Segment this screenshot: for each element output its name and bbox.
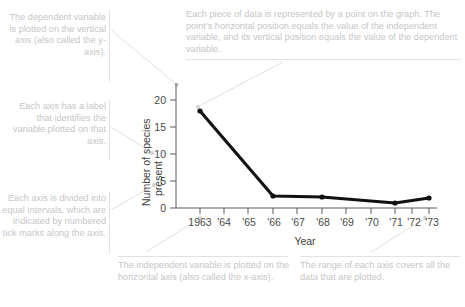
line-chart: 0 5 10 15 20 Number of species present xyxy=(0,0,465,307)
data-point xyxy=(392,200,397,205)
x-axis-tick-labels: 1963 '64 '65 '66 '67 '68 '69 '70 '71 '72… xyxy=(188,216,439,228)
x-tick-label: '73 xyxy=(425,216,439,228)
x-tick-label: '70 xyxy=(365,216,379,228)
leader-dependent-variable xyxy=(111,30,179,87)
y-axis-title-line1: Number of species xyxy=(140,118,152,206)
y-axis-title-line2: present xyxy=(152,161,164,196)
data-point xyxy=(426,195,431,200)
x-tick-label: '69 xyxy=(340,216,354,228)
x-axis-ticks xyxy=(200,208,429,214)
x-tick-label: '64 xyxy=(217,216,231,228)
leader-data-point xyxy=(196,62,283,109)
data-point xyxy=(197,108,202,113)
data-series xyxy=(197,108,431,205)
y-tick-label: 0 xyxy=(160,202,166,214)
data-point xyxy=(319,194,324,199)
x-axis-title: Year xyxy=(294,235,316,247)
x-tick-label: '68 xyxy=(316,216,330,228)
figure-canvas: The dependent variable is plotted on the… xyxy=(0,0,465,307)
x-tick-label: '66 xyxy=(267,216,281,228)
x-tick-label: '72 xyxy=(407,216,421,228)
x-tick-label: '65 xyxy=(242,216,256,228)
y-tick-label: 20 xyxy=(154,94,166,106)
series-polyline xyxy=(200,111,429,203)
y-tick-label: 10 xyxy=(154,148,166,160)
y-tick-label: 15 xyxy=(154,121,166,133)
x-tick-label: '71 xyxy=(389,216,403,228)
data-point xyxy=(270,193,275,198)
x-tick-label: 1963 xyxy=(188,216,212,228)
y-axis-ticks xyxy=(170,100,176,208)
x-tick-label: '67 xyxy=(291,216,305,228)
